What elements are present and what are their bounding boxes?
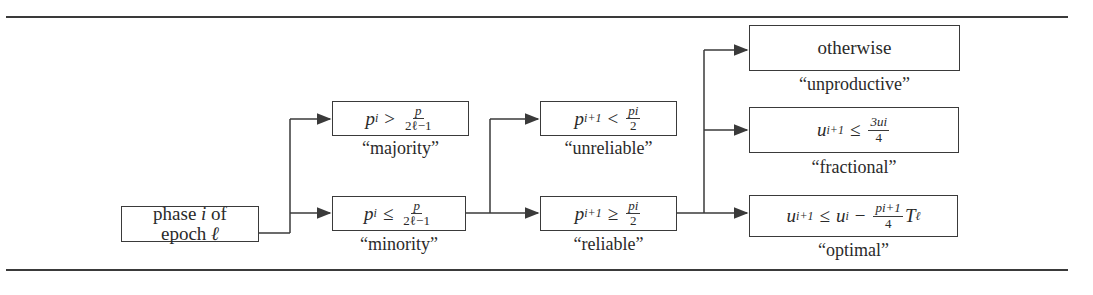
lhs-var: p [575, 204, 585, 224]
minority-label: “minority” [332, 234, 466, 255]
otherwise-box: otherwise [749, 25, 960, 71]
rhs-var: u [836, 206, 846, 226]
operator: ≤ [850, 120, 860, 140]
unreliable-box: pi+1 < pi 2 [540, 101, 677, 136]
fraction: p 2ℓ−1 [401, 199, 432, 229]
operator: ≤ [819, 206, 829, 226]
numerator: 3ui [868, 115, 889, 130]
lhs-var: p [575, 109, 585, 129]
optimal-label: “optimal” [749, 240, 958, 261]
minority-box: pi ≤ p 2ℓ−1 [332, 196, 466, 231]
numerator: p [413, 104, 424, 119]
tail-var: T [905, 206, 916, 226]
tail-sub: ℓ [915, 210, 920, 223]
fraction: pi 2 [626, 199, 640, 229]
lhs-sub: i+1 [827, 124, 844, 137]
minus-sign: − [855, 206, 866, 226]
lhs-sub: i+1 [796, 210, 813, 223]
reliable-label: “reliable” [540, 234, 677, 255]
var-i: i [201, 203, 206, 224]
fraction: p 2ℓ−1 [403, 104, 434, 134]
majority-box: pi > p 2ℓ−1 [332, 101, 469, 136]
start-box-phase-epoch: phase i of epoch ℓ [121, 206, 259, 242]
numerator: p [411, 199, 422, 214]
denominator: 4 [883, 217, 894, 231]
optimal-box: ui+1 ≤ ui − pi+1 4 Tℓ [749, 195, 958, 237]
start-line-2: epoch ℓ [161, 224, 219, 244]
rhs-sub: i [845, 210, 848, 223]
unreliable-label: “unreliable” [540, 138, 677, 159]
lhs-var: u [817, 120, 827, 140]
denominator: 2ℓ−1 [401, 214, 432, 228]
reliable-box: pi+1 ≥ pi 2 [540, 196, 677, 231]
denominator: 2 [628, 214, 639, 228]
lhs-sub: i+1 [584, 112, 601, 125]
fractional-box: ui+1 ≤ 3ui 4 [749, 107, 959, 153]
numerator: pi [626, 104, 640, 119]
lhs-sub: i [374, 207, 377, 220]
lhs-sub: i+1 [584, 207, 601, 220]
operator: > [384, 109, 395, 129]
fraction: pi 2 [626, 104, 640, 134]
start-line-1: phase i of [153, 204, 227, 224]
numerator: pi+1 [873, 201, 902, 216]
numerator: pi [626, 199, 640, 214]
lhs-var: p [365, 109, 375, 129]
fraction: 3ui 4 [868, 115, 889, 145]
unproductive-label: “unproductive” [749, 74, 960, 95]
denominator: 4 [873, 131, 884, 145]
lhs-var: u [787, 206, 797, 226]
operator: ≥ [608, 204, 618, 224]
fractional-label: “fractional” [749, 157, 959, 178]
operator: ≤ [383, 204, 393, 224]
epoch-word: epoch [161, 223, 206, 244]
fraction: pi+1 4 [873, 201, 902, 231]
operator: < [608, 109, 619, 129]
of-word: of [211, 203, 227, 224]
denominator: 2ℓ−1 [403, 119, 434, 133]
phase-word: phase [153, 203, 196, 224]
majority-label: “majority” [332, 138, 469, 159]
otherwise-text: otherwise [818, 38, 892, 58]
denominator: 2 [628, 119, 639, 133]
var-l: ℓ [211, 223, 219, 244]
lhs-var: p [364, 204, 374, 224]
lhs-sub: i [375, 112, 378, 125]
